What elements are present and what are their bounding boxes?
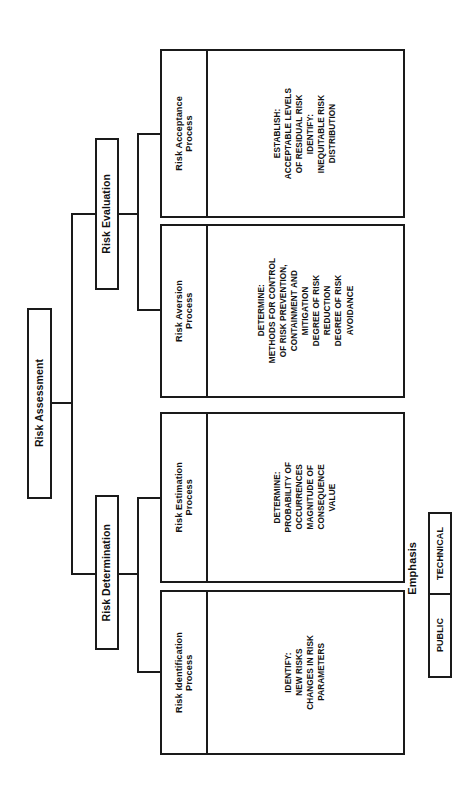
process-body-risk-aversion: DETERMINE: METHODS FOR CONTROL OF RISK P…: [208, 226, 403, 396]
process-title-risk-identification: Risk Identification Process: [174, 632, 195, 713]
connector-evaluation-to-aversion: [137, 309, 161, 311]
process-detail-risk-acceptance: ESTABLISH: ACCEPTABLE LEVELS OF RESIDUAL…: [272, 88, 338, 179]
process-header-risk-estimation: Risk Estimation Process: [162, 414, 208, 581]
connector-evaluation-to-acceptance: [137, 133, 161, 135]
process-detail-risk-estimation: DETERMINE: PROBABILITY OF OCCURRENCES MA…: [272, 462, 338, 532]
process-body-risk-estimation: DETERMINE: PROBABILITY OF OCCURRENCES MA…: [208, 414, 403, 581]
node-branch-evaluation-label: Risk Evaluation: [101, 174, 113, 254]
process-header-risk-identification: Risk Identification Process: [162, 592, 208, 753]
process-title-risk-aversion: Risk Aversion Process: [174, 280, 195, 342]
connector-determination-stem: [119, 573, 138, 575]
process-detail-risk-identification: IDENTIFY: NEW RISKS CHANGES IN RISK PARA…: [283, 635, 327, 710]
legend-title-text: Emphasis: [406, 542, 418, 595]
connector-root-spine: [71, 213, 73, 575]
node-root-risk-assessment[interactable]: Risk Assessment: [27, 308, 52, 499]
legend-label-public: PUBLIC: [435, 618, 445, 652]
connector-evaluation-spine: [137, 133, 139, 311]
process-box-risk-identification[interactable]: Risk Identification Process IDENTIFY: NE…: [160, 590, 405, 755]
connector-spine-to-determination: [71, 573, 96, 575]
node-branch-determination-label: Risk Determination: [101, 524, 113, 622]
process-header-risk-aversion: Risk Aversion Process: [162, 226, 208, 396]
legend-swatch-box[interactable]: TECHNICAL PUBLIC: [428, 512, 452, 678]
connector-root-stem: [52, 402, 72, 404]
connector-determination-to-identification: [137, 671, 161, 673]
node-branch-risk-determination[interactable]: Risk Determination: [95, 495, 119, 650]
connector-determination-spine: [137, 497, 139, 673]
legend-emphasis: Emphasis TECHNICAL PUBLIC: [404, 500, 462, 700]
connector-determination-to-estimation: [137, 497, 161, 499]
process-detail-risk-aversion: DETERMINE: METHODS FOR CONTROL OF RISK P…: [256, 258, 356, 363]
legend-title: Emphasis: [406, 542, 418, 597]
process-body-risk-identification: IDENTIFY: NEW RISKS CHANGES IN RISK PARA…: [208, 592, 403, 753]
node-branch-risk-evaluation[interactable]: Risk Evaluation: [95, 138, 119, 290]
legend-cell-public[interactable]: PUBLIC: [430, 595, 450, 676]
legend-cell-technical[interactable]: TECHNICAL: [430, 514, 450, 595]
diagram-canvas: Risk Assessment Risk Evaluation Risk Det…: [0, 0, 462, 793]
connector-evaluation-stem: [119, 213, 138, 215]
process-box-risk-acceptance[interactable]: Risk Acceptance Process ESTABLISH: ACCEP…: [160, 49, 405, 218]
connector-spine-to-evaluation: [71, 213, 96, 215]
process-box-risk-aversion[interactable]: Risk Aversion Process DETERMINE: METHODS…: [160, 224, 405, 398]
process-title-risk-acceptance: Risk Acceptance Process: [174, 96, 195, 171]
process-header-risk-acceptance: Risk Acceptance Process: [162, 51, 208, 216]
process-box-risk-estimation[interactable]: Risk Estimation Process DETERMINE: PROBA…: [160, 412, 405, 583]
process-title-risk-estimation: Risk Estimation Process: [174, 462, 195, 532]
process-body-risk-acceptance: ESTABLISH: ACCEPTABLE LEVELS OF RESIDUAL…: [208, 51, 403, 216]
node-root-label: Risk Assessment: [34, 359, 46, 447]
legend-label-technical: TECHNICAL: [435, 527, 445, 580]
